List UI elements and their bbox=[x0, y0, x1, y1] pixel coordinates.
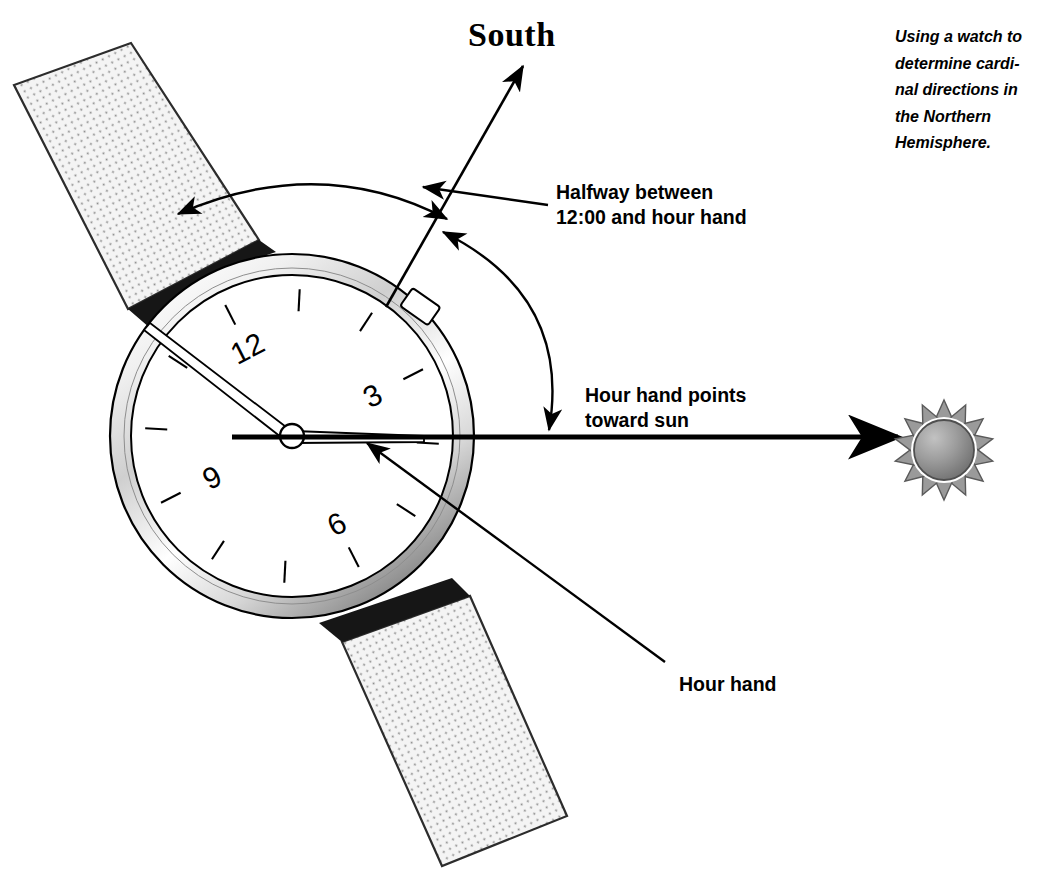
label-hour-hand-points-toward-sun: Hour hand points toward sun bbox=[585, 383, 746, 433]
sun-disc bbox=[914, 420, 974, 480]
watch-band-lower bbox=[319, 578, 567, 866]
label-halfway-between: Halfway between 12:00 and hour hand bbox=[556, 180, 747, 230]
label-hour-hand: Hour hand bbox=[679, 672, 777, 697]
sun-icon bbox=[893, 400, 994, 500]
halfway-label-leader bbox=[423, 187, 548, 205]
label-south: South bbox=[468, 16, 556, 54]
figure-caption: Using a watch to determine cardi- nal di… bbox=[895, 24, 1045, 157]
diagram-canvas: 12 3 6 9 bbox=[0, 0, 1048, 878]
watch-compass-illustration: 12 3 6 9 bbox=[0, 0, 1048, 878]
band-lower-strap bbox=[342, 596, 567, 866]
